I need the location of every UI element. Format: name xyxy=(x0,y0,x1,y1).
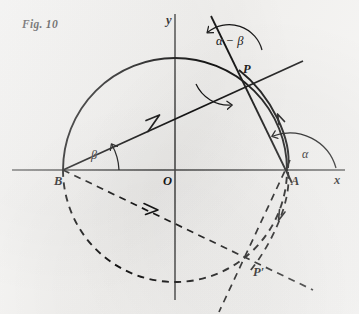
arc-a-to-p-prime xyxy=(250,172,289,271)
figure-caption: Fig. 10 xyxy=(22,19,58,31)
angle-label-beta: β xyxy=(91,149,97,161)
point-label-a: A xyxy=(291,175,299,188)
angle-label-alpha-minus-beta: α − β xyxy=(216,35,243,48)
arc-a-to-p-arrow xyxy=(278,114,285,125)
point-label-p: P xyxy=(243,63,251,76)
ray-a-through-p-prime xyxy=(219,160,290,312)
point-label-p-prime: P′ xyxy=(253,266,264,279)
ray-b-through-p xyxy=(63,61,303,170)
x-axis-label: x xyxy=(334,174,340,187)
point-label-o: O xyxy=(163,175,172,188)
angle-arc-beta xyxy=(112,145,119,170)
angle-label-alpha: α xyxy=(302,148,308,160)
point-label-b: B xyxy=(54,175,62,188)
ray-b-through-p-prime xyxy=(63,170,313,290)
axis-group xyxy=(12,14,345,300)
y-axis-label: y xyxy=(166,14,172,27)
angle-arc-alpha-minus-beta-opposite xyxy=(196,84,231,105)
figure-canvas: Fig. 10 y x O B A P P′ β α α − β xyxy=(0,0,359,314)
